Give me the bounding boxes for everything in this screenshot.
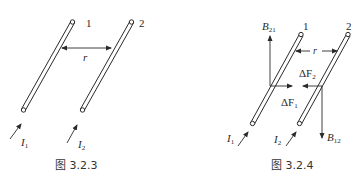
current-1-label: I1 — [226, 132, 235, 146]
caption-3-2-4: 图 3.2.4 — [271, 159, 314, 172]
wire-1 — [250, 32, 303, 125]
current-1-arrow — [10, 124, 21, 139]
parallel-wires-diagram: r 1 2 I1 I2 图 3.2.3 1 2 r — [0, 0, 363, 181]
wire-1-label: 1 — [86, 17, 92, 29]
current-2-label: I2 — [273, 133, 282, 147]
wire-2 — [80, 20, 133, 112]
wire-2-label: 2 — [346, 20, 352, 32]
current-1-arrow — [238, 132, 248, 146]
current-2-arrow — [67, 125, 77, 143]
separation-label: r — [83, 51, 88, 63]
figure-3-2-3: r 1 2 I1 I2 图 3.2.3 — [10, 17, 145, 172]
current-2-label: I2 — [77, 138, 86, 152]
force-f1-label: ΔF1 — [281, 96, 298, 110]
figure-3-2-4: 1 2 r B21 ΔF1 ΔF2 B12 I1 I2 图 3.2.4 — [226, 20, 352, 172]
force-f2-label: ΔF2 — [299, 67, 316, 81]
current-1-label: I1 — [20, 136, 29, 150]
separation-label: r — [313, 45, 317, 56]
caption-3-2-3: 图 3.2.3 — [55, 159, 98, 172]
wire-2 — [297, 32, 350, 125]
wire-1 — [21, 20, 74, 112]
wire-2-label: 2 — [139, 17, 145, 29]
wire-1-label: 1 — [303, 20, 309, 32]
field-b21-label: B21 — [262, 20, 276, 34]
current-2-arrow — [286, 132, 296, 146]
field-b12-label: B12 — [327, 131, 341, 145]
